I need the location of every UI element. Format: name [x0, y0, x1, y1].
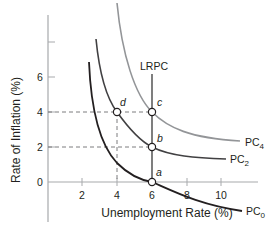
y-tick-label-0: 0: [37, 176, 43, 188]
y-tick-label-4: 4: [37, 106, 43, 118]
y-tick-label-6: 6: [37, 71, 43, 83]
x-tick-label-4: 4: [114, 189, 120, 201]
point-c-marker: [148, 108, 155, 115]
y-axis-title: Rate of Inflation (%): [9, 77, 23, 183]
y-tick-label-2: 2: [37, 141, 43, 153]
point-d-label: d: [120, 96, 127, 108]
x-tick-label-8: 8: [184, 189, 190, 201]
point-d-marker: [113, 108, 120, 115]
pc4-label: PC4: [245, 136, 265, 151]
point-a-label: a: [156, 166, 162, 178]
x-tick-label-10: 10: [215, 189, 227, 201]
lrpc-label: LRPC: [140, 60, 168, 72]
point-b-label: b: [157, 132, 163, 144]
point-a-marker: [148, 178, 155, 185]
y-ticks: [48, 42, 55, 147]
pc4-curve: [117, 3, 240, 141]
pc2-label: PC2: [230, 153, 250, 168]
phillips-curve-chart: 6 4 2 0 2 4 6 8 10 Unemployment Rate (%)…: [0, 0, 270, 232]
point-b-marker: [148, 143, 155, 150]
point-c-label: c: [157, 96, 163, 108]
x-tick-label-6: 6: [149, 189, 155, 201]
pc0-label: PC0: [246, 205, 266, 220]
reference-lines: [48, 112, 152, 182]
x-tick-label-2: 2: [79, 189, 85, 201]
x-axis-title: Unemployment Rate (%): [101, 206, 232, 220]
